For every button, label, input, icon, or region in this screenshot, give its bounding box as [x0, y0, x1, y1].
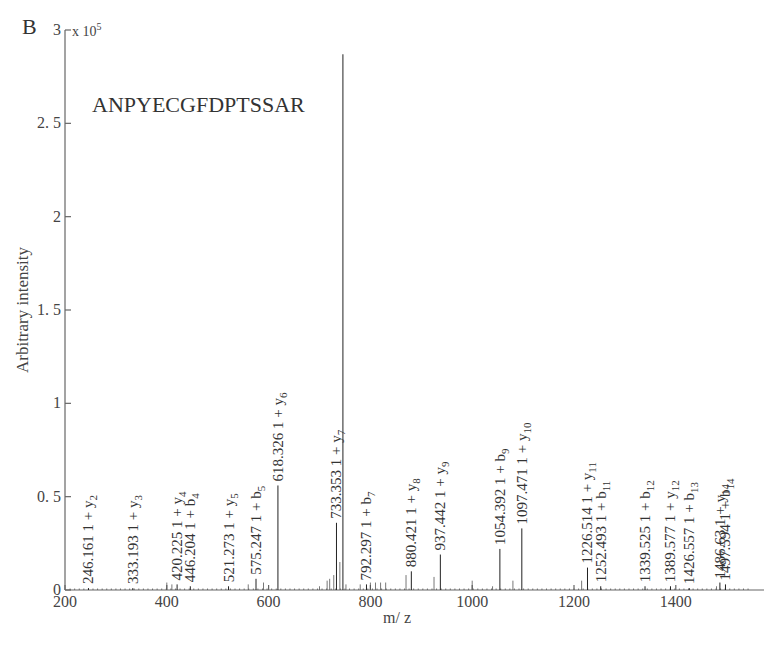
x-tick-label: 800 [358, 593, 382, 610]
peak-labels: 246.161 1 + y2333.193 1 + y3420.225 1 + … [80, 392, 736, 584]
y-tick-label: 2. 5 [37, 114, 61, 131]
y-tick-label: 0 [53, 581, 61, 598]
y-tick-label: 0. 5 [37, 488, 61, 505]
peak-annotation: 937.442 1 + y9 [432, 461, 451, 550]
x-tick-label: 1200 [558, 593, 590, 610]
y-axis-multiplier: x 105 [72, 21, 102, 39]
peak-annotation: 1389.577 1 + y12 [662, 480, 681, 582]
peak-annotation: 733.353 1 + y7 [328, 429, 347, 518]
peak-annotation: 333.193 1 + y3 [125, 495, 144, 584]
mass-spectrum-chart: 20040060080010001200140000. 511. 522. 53… [0, 0, 766, 656]
x-tick-label: 1000 [456, 593, 488, 610]
x-axis-label: m/ z [383, 609, 411, 626]
peak-annotation: 792.297 1 + b7 [358, 491, 377, 580]
y-axis-label: Arbitrary intensity [13, 246, 32, 373]
x-tick-label: 400 [155, 593, 179, 610]
x-tick-label: 1400 [660, 593, 692, 610]
peak-annotation: 446.204 1 + b4 [182, 493, 201, 582]
peak-annotation: 521.273 1 + y5 [221, 493, 240, 582]
y-tick-label: 2 [53, 208, 61, 225]
peak-annotation: 575.247 1 + b5 [248, 485, 267, 574]
peptide-sequence: ANPYECGFDPTSSAR [92, 92, 305, 117]
peak-annotation: 1252.493 1 + b11 [593, 481, 612, 583]
y-tick-label: 3 [53, 21, 61, 38]
peak-annotation: 1426.557 1 + b13 [681, 482, 700, 584]
peak-annotation: 1097.471 1 + y10 [514, 422, 533, 524]
y-tick-label: 1. 5 [37, 301, 61, 318]
peak-annotation: 1054.392 1 + b9 [492, 448, 511, 545]
peak-annotation: 618.326 1 + y6 [270, 392, 289, 481]
peak-annotation: 1497.594 1 + b14 [717, 478, 736, 580]
x-tick-label: 600 [257, 593, 281, 610]
peak-annotation: 1339.525 1 + b12 [637, 480, 656, 582]
peak-annotation: 880.421 1 + y8 [403, 478, 422, 567]
peak-annotation: 246.161 1 + y2 [80, 495, 99, 584]
y-tick-label: 1 [53, 394, 61, 411]
